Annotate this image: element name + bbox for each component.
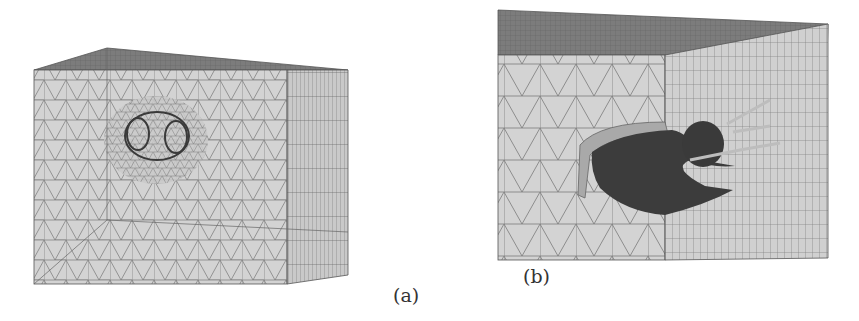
panel-a-mesh [34,48,348,284]
panel-b-mesh [498,10,828,260]
side-face [287,70,348,284]
panel-a-label: (a) [393,284,419,306]
refined-mesh-region [104,96,208,184]
figure-canvas: (a) (b) [0,0,859,321]
panel-b-label: (b) [523,265,550,287]
top-face [34,48,348,70]
tunnel-face [682,121,724,167]
